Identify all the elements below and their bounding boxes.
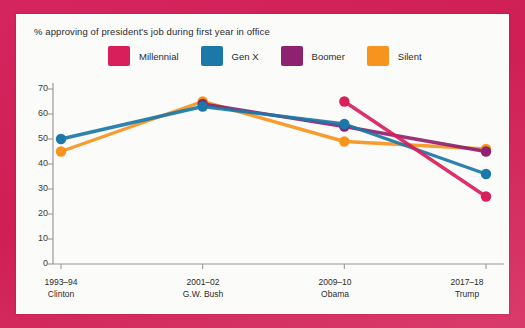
data-point-gen-x-3 bbox=[481, 169, 491, 179]
data-point-millennial-3 bbox=[481, 191, 491, 201]
chart-card: % approving of president's job during fi… bbox=[16, 14, 509, 314]
data-point-gen-x-1 bbox=[197, 101, 207, 111]
x-tick-president-obama: Obama bbox=[280, 288, 390, 300]
chart-svg bbox=[16, 14, 509, 314]
x-tick-president-clinton: Clinton bbox=[6, 288, 116, 300]
x-tick-trump: 2017–18 Trump bbox=[412, 276, 522, 300]
x-tick-year-bush: 2001–02 bbox=[148, 276, 258, 288]
data-point-silent-0 bbox=[56, 146, 66, 156]
y-tick-label-20: 20 bbox=[24, 208, 48, 218]
y-tick-label-30: 30 bbox=[24, 183, 48, 193]
data-point-gen-x-2 bbox=[339, 119, 349, 129]
x-tick-president-trump: Trump bbox=[412, 288, 522, 300]
x-tick-clinton: 1993–94 Clinton bbox=[6, 276, 116, 300]
poster-frame: % approving of president's job during fi… bbox=[0, 0, 525, 328]
chart-plot-area bbox=[16, 14, 509, 314]
y-tick-label-10: 10 bbox=[24, 233, 48, 243]
x-tick-bush: 2001–02 G.W. Bush bbox=[148, 276, 258, 300]
y-tick-label-0: 0 bbox=[24, 258, 48, 268]
data-point-boomer-3 bbox=[481, 146, 491, 156]
x-tick-year-trump: 2017–18 bbox=[412, 276, 522, 288]
series-line-silent bbox=[61, 102, 486, 152]
x-tick-obama: 2009–10 Obama bbox=[280, 276, 390, 300]
data-point-millennial-2 bbox=[339, 96, 349, 106]
data-point-gen-x-0 bbox=[56, 134, 66, 144]
y-tick-label-70: 70 bbox=[24, 83, 48, 93]
y-tick-label-40: 40 bbox=[24, 158, 48, 168]
x-tick-year-clinton: 1993–94 bbox=[6, 276, 116, 288]
y-tick-label-60: 60 bbox=[24, 108, 48, 118]
y-tick-label-50: 50 bbox=[24, 133, 48, 143]
data-point-silent-2 bbox=[339, 136, 349, 146]
x-tick-year-obama: 2009–10 bbox=[280, 276, 390, 288]
x-tick-president-bush: G.W. Bush bbox=[148, 288, 258, 300]
